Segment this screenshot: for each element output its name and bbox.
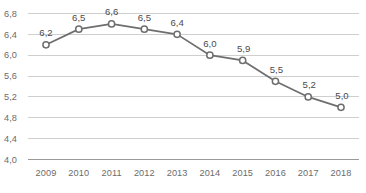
y-axis-tick-label: 6,8: [4, 9, 17, 19]
series-data-labels: 6,26,56,66,56,46,05,95,55,25,0: [39, 6, 348, 100]
x-axis-tick-labels: 2009201020112012201320142015201620172018: [36, 168, 352, 178]
data-point-label: 5,0: [335, 90, 348, 101]
data-point-marker: [76, 26, 82, 32]
x-axis-tick-label: 2012: [134, 168, 155, 178]
data-point-marker: [108, 21, 114, 27]
x-axis-tick-label: 2011: [101, 168, 121, 178]
data-point-label: 5,9: [237, 43, 250, 54]
data-point-label: 6,5: [72, 12, 85, 23]
data-point-label: 6,6: [105, 6, 118, 17]
y-axis-tick-label: 4,0: [4, 155, 17, 165]
series-line: [46, 24, 341, 107]
data-point-marker: [174, 31, 180, 37]
y-axis-tick-label: 6,4: [4, 30, 17, 40]
data-point-marker: [207, 52, 213, 58]
x-axis-tick-label: 2010: [68, 168, 89, 178]
y-axis-tick-label: 6,0: [4, 50, 17, 60]
data-point-marker: [338, 104, 344, 110]
line-chart: 6,86,46,05,65,24,84,44,0 200920102011201…: [0, 0, 366, 193]
x-axis-tick-label: 2014: [199, 168, 220, 178]
series-path: [46, 24, 341, 107]
data-point-label: 6,5: [138, 12, 151, 23]
data-point-marker: [141, 26, 147, 32]
x-axis-tick-label: 2015: [232, 168, 253, 178]
x-axis-tick-label: 2018: [331, 168, 352, 178]
data-point-label: 6,0: [203, 38, 216, 49]
y-axis-tick-labels: 6,86,46,05,65,24,84,44,0: [4, 9, 17, 165]
data-point-marker: [240, 57, 246, 63]
data-point-marker: [43, 42, 49, 48]
x-axis-tick-label: 2009: [36, 168, 57, 178]
data-point-label: 6,2: [39, 27, 52, 38]
y-axis-tick-label: 4,4: [4, 134, 17, 144]
x-axis-tick-label: 2013: [167, 168, 188, 178]
data-point-label: 5,2: [303, 79, 316, 90]
chart-canvas: 6,86,46,05,65,24,84,44,0 200920102011201…: [0, 0, 366, 193]
y-axis-tick-label: 4,8: [4, 113, 17, 123]
data-point-marker: [305, 94, 311, 100]
data-point-label: 6,4: [170, 17, 184, 28]
x-axis-tick-label: 2016: [265, 168, 286, 178]
y-axis-tick-label: 5,6: [4, 71, 17, 81]
y-axis-tick-label: 5,2: [4, 92, 17, 102]
data-point-label: 5,5: [270, 64, 283, 75]
x-axis-tick-label: 2017: [298, 168, 319, 178]
data-point-marker: [272, 78, 278, 84]
